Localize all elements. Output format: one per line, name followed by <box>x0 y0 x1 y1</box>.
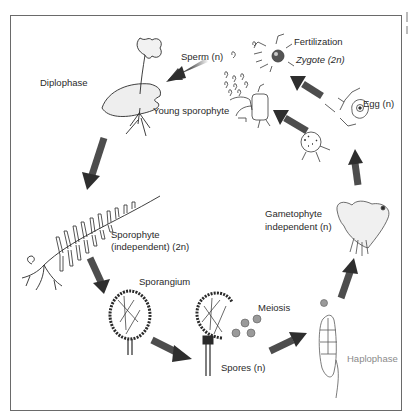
germinating-spore-drawing <box>319 315 338 398</box>
archegonium-egg-drawing <box>325 88 368 126</box>
antheridium-drawing <box>301 132 330 162</box>
gametophyte-fragment-drawing <box>230 84 270 128</box>
label-sporophyte-line2: (independent) (2n) <box>111 241 189 253</box>
label-gametophyte-line1: Gametophyte <box>265 208 322 220</box>
arrow-germination-to-gametophyte <box>341 258 358 298</box>
label-egg: Egg (n) <box>363 98 394 110</box>
sperm-drawing <box>225 42 256 96</box>
label-sperm: Sperm (n) <box>181 51 223 63</box>
arrow-archegonium-to-antheridium <box>273 110 307 131</box>
label-gametophyte-line2: independent (n) <box>265 221 332 233</box>
sporangium-drawing <box>110 291 150 355</box>
label-young-sporophyte: Young sporophyte <box>153 105 229 117</box>
label-fertilization: Fertilization <box>294 36 343 48</box>
label-zygote: Zygote (2n) <box>296 54 345 66</box>
label-sporophyte-line1: Sporophyte <box>111 229 160 241</box>
gametophyte-drawing <box>337 201 389 256</box>
arrow-spores-to-germination <box>270 332 307 351</box>
label-sporangium: Sporangium <box>139 276 190 288</box>
young-sporophyte-drawing <box>102 38 161 136</box>
label-haplophase: Haplophase <box>347 353 398 365</box>
arrow-sporophyte-to-sporangium <box>90 258 110 294</box>
label-spores: Spores (n) <box>221 362 265 374</box>
zygote-drawing <box>254 34 294 72</box>
arrow-gametophyte-to-egg <box>348 149 363 185</box>
label-meiosis: Meiosis <box>258 302 290 314</box>
arrow-young-to-sporophyte <box>82 138 104 190</box>
arrow-egg-to-zygote <box>290 76 322 96</box>
arrow-sporangium-to-spores <box>152 340 192 362</box>
label-diplophase: Diplophase <box>40 77 88 89</box>
